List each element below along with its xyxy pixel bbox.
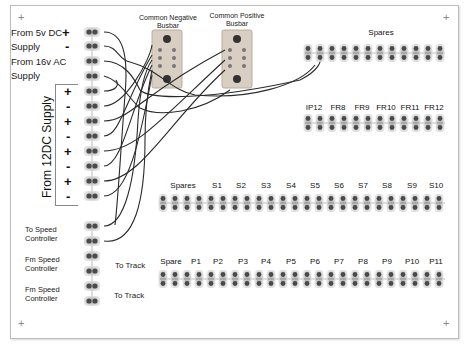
s-label-s3: S3 xyxy=(253,181,279,190)
left-terminal-strip xyxy=(84,27,100,306)
to-track-label-1: To Track xyxy=(115,260,145,271)
s-label-s7: S7 xyxy=(350,181,376,190)
dc12-sign-8: - xyxy=(66,190,70,203)
top-spares-header: Spares xyxy=(361,28,401,37)
p-label-p9: P9 xyxy=(374,257,400,266)
to-speed-controller-label: To Speed Controller xyxy=(25,225,58,243)
from-12dc-supply-label: From 12DC Supply xyxy=(40,96,54,198)
dc12-sign-6: - xyxy=(66,160,70,173)
to-speed-line1: To Speed xyxy=(25,225,58,234)
dc12-sign-2: - xyxy=(66,100,70,113)
p-strip xyxy=(159,270,446,288)
dc12-sign-7: + xyxy=(64,175,72,188)
positive-busbar-label-line1: Common Positive xyxy=(207,12,267,20)
plus-sign-5v: + xyxy=(62,26,70,39)
from-16v-ac-label: From 16v AC xyxy=(11,56,66,67)
dc12-sign-5: + xyxy=(64,145,72,158)
negative-busbar-label-line2: Busbar xyxy=(138,22,198,30)
s-label-s10: S10 xyxy=(423,181,449,190)
s-label-s2: S2 xyxy=(228,181,254,190)
dc12-sign-3: + xyxy=(64,115,72,128)
positive-busbar-block xyxy=(222,30,252,88)
dc12-sign-4: - xyxy=(66,130,70,143)
fm-speed-controller-2-label: Fm Speed Controller xyxy=(25,285,60,303)
p-label-p5: P5 xyxy=(278,257,304,266)
fr-strip xyxy=(304,114,446,132)
s-label-s4: S4 xyxy=(278,181,304,190)
from-5v-dc-label-line2: Supply xyxy=(11,41,40,52)
p-label-p11: P11 xyxy=(423,257,449,266)
s-label-s5: S5 xyxy=(302,181,328,190)
p-label-p8: P8 xyxy=(350,257,376,266)
fm-speed-1-line1: Fm Speed xyxy=(25,255,60,264)
positive-busbar-label-line2: Busbar xyxy=(207,20,267,28)
p-label-spare: Spare xyxy=(157,257,185,266)
fm-speed-1-line2: Controller xyxy=(25,264,60,273)
negative-busbar-label: Common Negative Busbar xyxy=(138,14,198,30)
to-track-label-2: To Track xyxy=(114,290,144,301)
p-label-p6: P6 xyxy=(302,257,328,266)
from-16v-ac-label-line2: Supply xyxy=(11,70,40,81)
fr-label-ip12: IP12 xyxy=(301,103,327,112)
p-label-p7: P7 xyxy=(326,257,352,266)
positive-busbar-label: Common Positive Busbar xyxy=(207,12,267,28)
s-strip xyxy=(159,194,446,212)
negative-busbar-block xyxy=(152,30,182,88)
fm-speed-controller-1-label: Fm Speed Controller xyxy=(25,255,60,273)
from-5v-dc-label: From 5v DC xyxy=(11,27,62,38)
fr-label-fr10: FR10 xyxy=(373,103,399,112)
negative-busbar-label-line1: Common Negative xyxy=(138,14,198,22)
s-label-s1: S1 xyxy=(204,181,230,190)
to-speed-line2: Controller xyxy=(25,234,58,243)
top-spares-strip xyxy=(304,44,446,62)
minus-sign-5v: - xyxy=(65,40,69,53)
p-label-p10: P10 xyxy=(399,257,425,266)
s-label-s6: S6 xyxy=(326,181,352,190)
s-label-spares: Spares xyxy=(165,181,201,190)
fr-label-fr9: FR9 xyxy=(349,103,375,112)
fr-label-fr12: FR12 xyxy=(421,103,447,112)
p-label-p2: P2 xyxy=(205,257,231,266)
s-label-s9: S9 xyxy=(399,181,425,190)
fm-speed-2-line1: Fm Speed xyxy=(25,285,60,294)
fm-speed-2-line2: Controller xyxy=(25,294,60,303)
fr-label-fr8: FR8 xyxy=(325,103,351,112)
p-label-p4: P4 xyxy=(253,257,279,266)
s-label-s8: S8 xyxy=(374,181,400,190)
fr-label-fr11: FR11 xyxy=(397,103,423,112)
dc12-sign-1: + xyxy=(64,85,72,98)
